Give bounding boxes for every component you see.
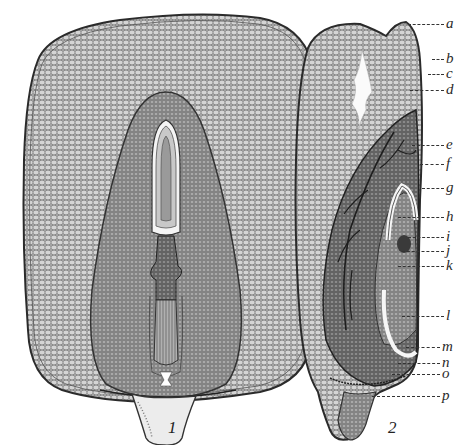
panel-1-kernel [24,14,320,445]
leader-line-i [408,237,444,238]
leader-line-n [398,363,440,364]
panel-1-tip-cap [132,394,196,445]
leader-line-a [408,24,444,25]
leader-line-c [428,74,444,75]
label-h: h [446,209,454,224]
label-m: m [442,339,453,354]
leader-line-f [420,164,444,165]
panel-1-radicle [154,300,178,365]
label-o: o [442,366,450,381]
label-c: c [446,66,453,81]
leader-line-b [432,59,444,60]
panel-2-tip-cap [338,392,376,440]
panel-2-kernel [296,22,423,440]
figure-number-1: 1 [168,418,177,438]
label-b: b [446,51,454,66]
label-j: j [446,243,450,258]
kernel-illustration [0,0,464,445]
label-k: k [446,258,453,273]
label-g: g [446,180,454,195]
leader-line-k [398,266,444,267]
leader-line-j [402,251,444,252]
leader-line-e [412,145,444,146]
leader-line-h [398,217,444,218]
figure-number-2: 2 [388,418,397,438]
label-d: d [446,82,454,97]
leader-line-d [410,90,444,91]
label-e: e [446,137,453,152]
label-p: p [442,388,450,403]
label-l: l [446,308,450,323]
leader-line-o [392,374,440,375]
leader-line-p [372,396,440,397]
leader-line-m [406,347,440,348]
leader-line-l [402,316,444,317]
leader-line-g [422,188,444,189]
label-a: a [446,16,454,31]
label-f: f [446,156,450,171]
